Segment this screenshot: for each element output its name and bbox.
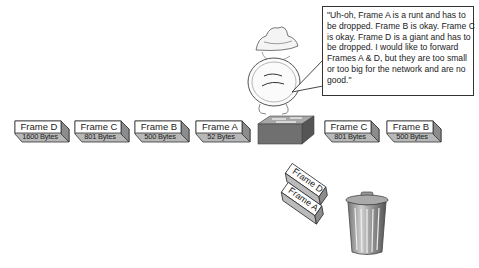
frame-name: Frame B	[136, 121, 182, 132]
speech-bubble-text: "Uh-oh, Frame A is a runt and has to be …	[327, 10, 475, 86]
switch-icon	[256, 114, 318, 148]
frame-size: 801 Bytes	[76, 132, 124, 141]
frame-name: Frame A	[197, 121, 243, 132]
speech-bubble-pointer	[290, 60, 326, 94]
forwarded-frame-c: Frame C 801 Bytes	[324, 120, 380, 142]
frame-size: 500 Bytes	[136, 132, 184, 141]
incoming-frame-a: Frame A 52 Bytes	[195, 120, 251, 142]
frame-size: 801 Bytes	[326, 132, 374, 141]
frame-size: 52 Bytes	[197, 132, 245, 141]
frame-name: Frame C	[326, 121, 372, 132]
trash-can-icon	[344, 190, 390, 258]
frame-name: Frame D	[16, 121, 62, 132]
frame-size: 1600 Bytes	[16, 132, 64, 141]
forwarded-frame-b: Frame B 500 Bytes	[386, 120, 442, 142]
frame-name: Frame C	[76, 121, 122, 132]
incoming-frame-c: Frame C 801 Bytes	[74, 120, 130, 142]
incoming-frame-d: Frame D 1600 Bytes	[14, 120, 70, 142]
frame-name: Frame B	[388, 121, 434, 132]
frame-size: 500 Bytes	[388, 132, 436, 141]
incoming-frame-b: Frame B 500 Bytes	[134, 120, 190, 142]
